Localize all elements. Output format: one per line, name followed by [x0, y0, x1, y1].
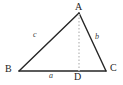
side-label-c: c — [33, 31, 37, 39]
side-label-a: a — [49, 72, 53, 80]
side-ac-line — [79, 13, 106, 71]
geometry-figure: A B C D c b a — [0, 0, 123, 85]
vertex-label-d: D — [74, 72, 81, 82]
triangle-drawing — [0, 0, 123, 85]
vertex-label-b: B — [5, 64, 12, 74]
side-ab-line — [19, 13, 79, 71]
side-label-b: b — [95, 33, 99, 41]
vertex-label-a: A — [75, 2, 82, 12]
vertex-label-c: C — [110, 63, 117, 73]
